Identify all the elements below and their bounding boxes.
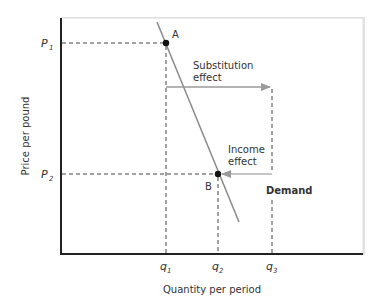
diagram-canvas: A B Substitution effect Income effect De… [0,0,384,305]
svg-text:1: 1 [49,44,53,52]
point-b-label: B [205,181,212,192]
y-axis-title: Price per pound [20,97,31,176]
svg-text:P: P [41,37,48,50]
x-tick-q1: q 1 [160,260,171,275]
svg-text:1: 1 [167,267,171,275]
point-a-marker [163,40,169,46]
income-effect-label-line1: Income [228,144,265,155]
x-tick-q3: q 3 [266,260,277,275]
y-tick-p2: P 2 [41,168,54,183]
svg-text:P: P [41,168,48,181]
point-b-marker [215,171,221,177]
x-tick-q2: q 2 [212,260,224,275]
x-axis-title: Quantity per period [163,284,261,295]
substitution-effect-label-line1: Substitution [193,60,253,71]
plot-frame [61,17,365,255]
svg-text:2: 2 [49,175,54,183]
income-effect-label-line2: effect [228,156,257,167]
svg-text:2: 2 [219,267,224,275]
svg-text:q: q [266,260,273,273]
substitution-effect-label-line2: effect [193,72,222,83]
svg-text:q: q [160,260,167,273]
svg-text:q: q [212,260,219,273]
svg-text:3: 3 [273,267,277,275]
point-a-label: A [172,29,179,40]
demand-curve-label: Demand [266,185,313,196]
y-tick-p1: P 1 [41,37,53,52]
